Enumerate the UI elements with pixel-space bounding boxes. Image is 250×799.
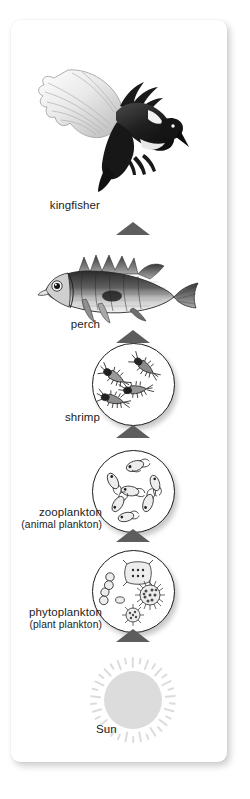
label-phytoplankton-text: phytoplankton	[29, 606, 102, 618]
sun-ray	[91, 687, 98, 691]
label-perch-text: perch	[71, 318, 100, 330]
sun-ray	[124, 658, 128, 665]
sun-ray	[116, 733, 121, 740]
sun-ray	[90, 702, 97, 705]
sun-ray	[91, 708, 102, 713]
label-phytoplankton: phytoplankton (plant plankton)	[29, 606, 102, 631]
sun-ray	[116, 659, 122, 670]
sun-ray	[94, 715, 101, 720]
sun-ray	[165, 695, 176, 698]
phytoplankton-microscope-circle	[92, 550, 175, 633]
arrow-perch-to-kingfisher	[116, 222, 150, 235]
zooplankton-microscope-circle	[92, 450, 175, 533]
arrow-phytoplankton-to-zooplankton	[116, 529, 150, 542]
label-sun-text: Sun	[96, 723, 117, 735]
sun-ray	[151, 663, 157, 670]
label-shrimp: shrimp	[65, 411, 100, 424]
label-sun: Sun	[96, 723, 117, 736]
sun-ray	[132, 657, 134, 668]
shrimp-microscope-circle	[92, 343, 175, 426]
sun-ray	[161, 680, 172, 687]
sun-ray	[167, 687, 174, 691]
label-perch: perch	[71, 318, 100, 331]
label-zooplankton-sublabel: (animal plankton)	[21, 519, 102, 531]
label-kingfisher-text: kingfisher	[50, 199, 100, 211]
arrow-shrimp-to-perch	[116, 330, 150, 343]
sun-ray	[156, 726, 162, 733]
sun-ray	[98, 673, 105, 679]
arrow-sun-to-phytoplankton	[116, 629, 150, 642]
sun-ray	[138, 658, 142, 665]
sun-ray	[132, 736, 134, 743]
label-zooplankton: zooplankton (animal plankton)	[21, 506, 102, 531]
label-shrimp-text: shrimp	[65, 411, 100, 423]
sun-ray	[103, 667, 112, 677]
sun-ray	[143, 659, 149, 670]
kingfisher-bird-illustration	[24, 38, 189, 198]
sun-disc	[104, 671, 162, 729]
sun-ray	[163, 708, 174, 713]
sun-ray	[165, 715, 172, 720]
sun-ray	[149, 727, 157, 738]
label-kingfisher: kingfisher	[50, 199, 100, 212]
sun-ray	[158, 718, 168, 727]
food-chain-diagram: kingfisher	[0, 0, 250, 799]
sun-ray	[169, 702, 176, 705]
sun-ray	[138, 731, 142, 742]
sun-ray	[161, 673, 168, 679]
sun-ray	[109, 663, 115, 670]
sun-ray	[90, 695, 101, 698]
label-zooplankton-text: zooplankton	[39, 506, 102, 518]
label-phytoplankton-sublabel: (plant plankton)	[29, 619, 102, 631]
arrow-zooplankton-to-shrimp	[116, 425, 150, 438]
perch-fish-illustration	[26, 252, 202, 328]
sun-ray	[124, 731, 128, 742]
sun-ray	[94, 680, 105, 687]
sun-ray	[145, 733, 150, 740]
